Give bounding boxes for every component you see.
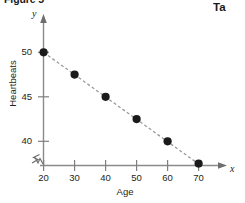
y-axis — [40, 14, 47, 166]
y-axis-symbol: y — [32, 8, 36, 19]
x-tick-label-20: 20 — [32, 172, 56, 183]
scatter-chart: 50 45 40 20 30 40 50 60 70 y x Heartbeat… — [0, 0, 245, 203]
y-tick-label-40: 40 — [12, 135, 32, 146]
data-point — [133, 115, 141, 123]
y-axis-title: Heartbeats — [7, 44, 18, 124]
trend-line — [44, 52, 202, 166]
data-point — [102, 93, 110, 101]
data-point-group — [40, 48, 203, 167]
data-point — [40, 48, 48, 56]
x-tick-label-60: 60 — [156, 172, 180, 183]
x-tick-label-40: 40 — [94, 172, 118, 183]
data-point — [71, 70, 79, 78]
x-axis-title: Age — [95, 186, 155, 197]
x-axis-arrow-icon — [218, 162, 227, 169]
y-axis-arrow-icon — [40, 14, 47, 23]
x-axis-symbol: x — [230, 163, 234, 174]
x-tick-label-30: 30 — [63, 172, 87, 183]
data-point — [164, 137, 172, 145]
x-tick-label-70: 70 — [187, 172, 211, 183]
axis-break-icon — [32, 155, 43, 165]
data-point — [195, 159, 203, 167]
x-tick-label-50: 50 — [125, 172, 149, 183]
